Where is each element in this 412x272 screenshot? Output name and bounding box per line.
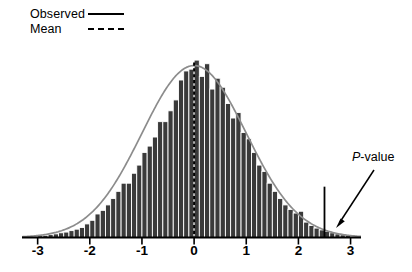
histogram-bar (79, 228, 84, 238)
histogram-bar (231, 118, 236, 237)
histogram-bar (142, 152, 147, 237)
histogram-bar (90, 220, 95, 237)
x-axis-tick-label: -3 (32, 244, 44, 258)
histogram-bar (262, 171, 267, 237)
histogram-bar (132, 173, 137, 237)
histogram-bar (105, 205, 110, 238)
histogram-bar (257, 165, 262, 237)
histogram-bar (121, 183, 126, 237)
histogram-bar (251, 152, 256, 237)
x-axis-tick-label: -2 (84, 244, 96, 258)
p-value-arrow (336, 170, 374, 228)
histogram-bar (152, 137, 157, 237)
p-value-annotation: P-value (352, 150, 394, 164)
histogram-bar (210, 89, 215, 237)
histogram-bar (288, 209, 293, 237)
histogram-bar (184, 71, 189, 238)
histogram-bar (309, 226, 314, 238)
observed-line-key (88, 13, 124, 15)
histogram-bar (178, 80, 183, 237)
histogram-bar (100, 210, 105, 237)
chart-canvas (0, 0, 412, 272)
mean-line-key (88, 28, 124, 30)
histogram-bar (74, 229, 79, 237)
histogram-bar (246, 139, 251, 238)
histogram-bar (241, 133, 246, 238)
legend-label-mean: Mean (30, 22, 62, 36)
histogram-bar (116, 191, 121, 237)
histogram-bar (236, 113, 241, 238)
histogram-bar (205, 64, 210, 238)
histogram-bar (199, 76, 204, 237)
x-axis-tick-label: 0 (190, 244, 198, 258)
histogram-bar (85, 224, 90, 238)
histogram-bar (304, 222, 309, 237)
histogram-bar (95, 214, 100, 238)
histogram-bar (220, 87, 225, 237)
histogram-bar (267, 183, 272, 237)
histogram-bar (283, 205, 288, 238)
p-value-annotation-suffix: -value (360, 150, 394, 164)
x-axis-tick-label: 1 (242, 244, 250, 258)
histogram-bar (137, 165, 142, 237)
x-axis-tick-label: 3 (347, 244, 355, 258)
histogram-chart: Observed Mean -3-2-10123 P-value (0, 0, 412, 272)
histogram-bar (126, 183, 131, 237)
histogram-bar (293, 213, 298, 237)
histogram-bar (278, 199, 283, 238)
legend-label-observed: Observed (30, 7, 85, 21)
histogram-bar (158, 122, 163, 238)
histogram-bar (168, 111, 173, 238)
histogram-bar (225, 104, 230, 238)
x-axis-tick-label: 2 (295, 244, 303, 258)
histogram-bar (215, 78, 220, 237)
histogram-bar (147, 146, 152, 237)
histogram-bar (163, 122, 168, 238)
x-axis-tick-label: -1 (136, 244, 148, 258)
histogram-bar (111, 199, 116, 238)
histogram-bar (314, 228, 319, 237)
histogram-bar (272, 191, 277, 237)
histogram-bar (173, 100, 178, 238)
